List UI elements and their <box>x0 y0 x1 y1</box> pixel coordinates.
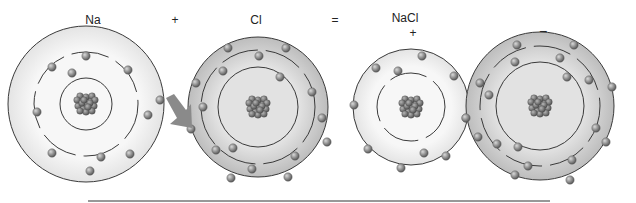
electron <box>48 149 56 157</box>
electron <box>513 41 521 49</box>
electron <box>462 114 470 122</box>
electron <box>608 83 616 91</box>
electron <box>514 143 522 151</box>
electron <box>566 176 574 184</box>
electron <box>524 162 532 170</box>
nucleus <box>246 96 271 119</box>
electron <box>418 52 426 60</box>
electron <box>48 63 56 71</box>
electron <box>282 44 290 52</box>
electron <box>563 73 571 81</box>
electron <box>442 152 450 160</box>
electron <box>86 167 94 175</box>
electron <box>68 69 76 77</box>
electron <box>227 174 235 182</box>
electron <box>284 173 292 181</box>
electron <box>372 64 380 72</box>
electron <box>97 153 105 161</box>
electron <box>485 91 493 99</box>
electron <box>229 144 237 152</box>
electron <box>291 152 299 160</box>
electron <box>224 44 232 52</box>
chlorine-atom <box>187 37 331 182</box>
electron <box>156 96 164 104</box>
electron <box>255 52 263 60</box>
sodium-atom <box>8 26 164 182</box>
nucleus <box>74 93 99 116</box>
electron <box>33 108 41 116</box>
atoms-layer <box>8 26 616 184</box>
electron <box>199 103 207 111</box>
electron <box>318 114 326 122</box>
electron <box>276 73 284 81</box>
electron <box>82 52 90 60</box>
electron <box>592 124 600 132</box>
electron <box>474 133 482 141</box>
electron <box>394 67 402 75</box>
electron <box>323 138 331 146</box>
electron <box>511 171 519 179</box>
electron <box>192 79 200 87</box>
electron <box>364 145 372 153</box>
atom-diagram <box>0 0 636 203</box>
electron <box>493 140 501 148</box>
chloride-ion <box>462 32 616 184</box>
electron <box>511 58 519 66</box>
electron <box>420 149 428 157</box>
nucleus <box>399 96 424 119</box>
nucleus <box>528 95 553 118</box>
electron <box>568 156 576 164</box>
electron <box>124 66 132 74</box>
electron <box>476 79 484 87</box>
electron <box>397 164 405 172</box>
electron <box>585 76 593 84</box>
electron <box>144 111 152 119</box>
electron <box>602 138 610 146</box>
sodium-ion <box>350 49 470 172</box>
electron <box>556 54 564 62</box>
electron <box>126 150 134 158</box>
electron <box>450 72 458 80</box>
electron <box>212 146 220 154</box>
electron <box>219 67 227 75</box>
electron <box>248 165 256 173</box>
electron <box>308 88 316 96</box>
electron <box>570 41 578 49</box>
electron <box>350 101 358 109</box>
